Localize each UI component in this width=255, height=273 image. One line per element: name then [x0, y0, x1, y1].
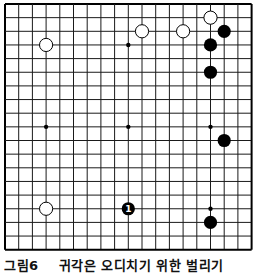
star-point	[126, 125, 130, 129]
white-stone	[177, 25, 190, 38]
figure-caption: 그림6 귀각은 오디치기 위한 벌리기	[4, 259, 224, 272]
black-stone: 1	[122, 202, 135, 215]
black-stone	[204, 38, 217, 51]
white-stone	[204, 11, 217, 24]
star-point	[126, 43, 130, 47]
black-stone	[218, 134, 231, 147]
white-stone	[40, 38, 53, 51]
star-point	[44, 125, 48, 129]
star-point	[208, 207, 212, 211]
go-board: 1	[0, 0, 255, 255]
black-stone	[204, 66, 217, 79]
move-number-label: 1	[125, 204, 131, 214]
black-stone	[204, 216, 217, 229]
caption-text: 귀각은 오디치기 위한 벌리기	[59, 258, 224, 273]
white-stone	[135, 25, 148, 38]
figure-number: 그림6	[4, 258, 39, 273]
black-stone	[218, 25, 231, 38]
star-point	[208, 125, 212, 129]
stones: 1	[40, 11, 231, 229]
white-stone	[40, 202, 53, 215]
